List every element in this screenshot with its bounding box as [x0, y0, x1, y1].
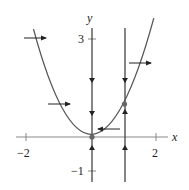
arrow-down-icon	[122, 78, 128, 83]
arrow-up-icon	[89, 145, 95, 150]
phase-plane-diagram: y x 3 −1 −2 2	[0, 0, 189, 190]
equilibrium-point-1-1	[122, 101, 127, 106]
arrow-up-icon	[122, 109, 128, 114]
x-tick-label-2: 2	[152, 146, 158, 160]
y-tick-label-3: 3	[78, 32, 84, 46]
diagram-canvas: y x 3 −1 −2 2	[0, 0, 189, 190]
y-tick-label-neg1: −1	[71, 164, 84, 178]
x-tick-label-neg2: −2	[17, 146, 30, 160]
arrow-down-icon	[89, 78, 95, 83]
equilibrium-point-origin	[89, 134, 94, 139]
arrow-down-icon	[89, 111, 95, 116]
y-axis-label: y	[86, 11, 93, 25]
arrow-up-icon	[122, 145, 128, 150]
parabola-curve	[34, 18, 154, 134]
x-axis-label: x	[171, 130, 178, 144]
